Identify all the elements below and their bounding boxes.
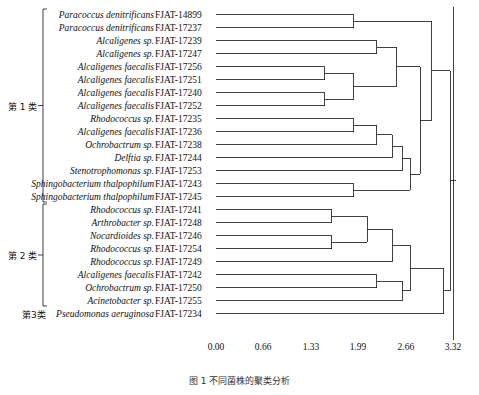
x-tick-1.99: 1.99 [338, 342, 378, 352]
x-tick-0.00: 0.00 [196, 342, 236, 352]
figure-caption: 图 1 不同菌株的聚类分析 [0, 374, 479, 387]
x-tick-0.66: 0.66 [243, 342, 283, 352]
dendrogram-plot [0, 0, 479, 395]
x-tick-3.32: 3.32 [433, 342, 473, 352]
x-tick-2.66: 2.66 [386, 342, 426, 352]
x-tick-1.33: 1.33 [291, 342, 331, 352]
